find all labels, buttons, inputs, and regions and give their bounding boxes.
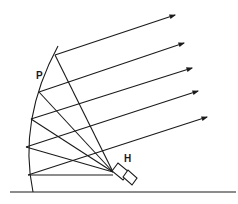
label-p: P [36,70,43,81]
label-h: H [124,153,131,164]
reflector-diagram: P H [0,0,238,204]
horn-antenna [112,163,137,185]
reflected-rays [26,15,207,175]
